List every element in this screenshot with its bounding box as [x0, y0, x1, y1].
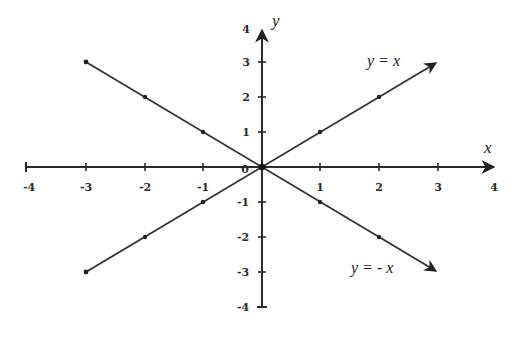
x-tick-label: 2	[375, 181, 383, 194]
x-tick-label: -2	[139, 181, 151, 194]
x-axis-title: x	[483, 138, 492, 157]
coordinate-plane: -4 -3 -2 -1 1 2 3 4 0 4 3 2 1 -1 -2 -3 -…	[0, 0, 517, 337]
y-tick-label: 1	[242, 126, 250, 139]
y-tick-label: -3	[237, 266, 249, 279]
x-tick-label: -4	[23, 181, 36, 194]
y-tick-label: -1	[237, 196, 249, 209]
origin-point	[259, 164, 265, 170]
x-tick-label: 3	[434, 181, 442, 194]
y-tick-label: 4	[242, 23, 250, 36]
line-label-y-equals-neg-x: y = - x	[349, 259, 393, 277]
line-label-y-equals-x: y = x	[365, 52, 400, 70]
y-tick-label: 3	[242, 56, 250, 69]
x-tick-label: 4	[490, 181, 498, 194]
y-tick-label: -2	[237, 231, 249, 244]
y-tick-label: -4	[237, 301, 250, 314]
x-tick-label: -3	[80, 181, 92, 194]
y-axis-title: y	[270, 11, 280, 30]
x-tick-label: -1	[197, 181, 209, 194]
x-tick-labels: -4 -3 -2 -1 1 2 3 4	[23, 181, 498, 194]
y-tick-label: 2	[242, 91, 250, 104]
x-tick-label: 1	[316, 181, 324, 194]
origin-label: 0	[241, 163, 249, 176]
